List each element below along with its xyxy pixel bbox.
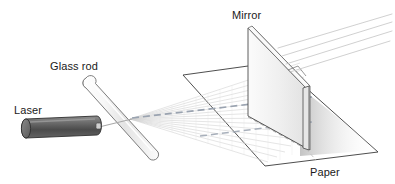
label-laser: Laser [14,104,42,116]
optics-diagram: Laser Glass rod Mirror Paper [0,0,395,184]
reflected-rays [278,14,392,72]
label-paper: Paper [310,166,340,178]
scene-svg [0,0,395,184]
label-mirror: Mirror [232,9,261,21]
label-glass-rod: Glass rod [50,60,98,72]
laser-pointer [21,116,101,138]
